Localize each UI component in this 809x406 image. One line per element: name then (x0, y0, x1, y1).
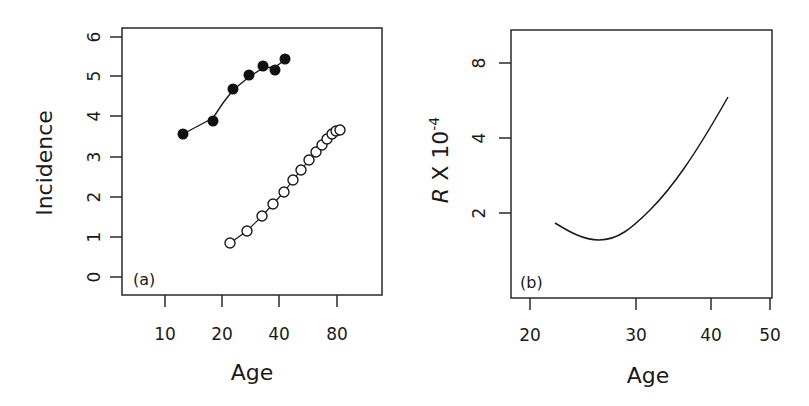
panel-b-label: (b) (520, 273, 543, 292)
data-point (225, 238, 235, 248)
panel-b-x-axis-title: Age (627, 363, 670, 388)
panel-a-frame (122, 28, 382, 295)
figure: 0 1 2 3 4 5 6 Incidence 10 20 40 80 Age … (0, 0, 809, 406)
y-tick-label: 6 (84, 32, 104, 43)
data-point (335, 125, 345, 135)
y-title-mid: X 10 (428, 131, 453, 188)
panel-b-y-axis-title: R X 10-4 (426, 117, 453, 203)
data-point (258, 61, 269, 72)
panel-a: 0 1 2 3 4 5 6 Incidence 10 20 40 80 Age … (32, 28, 382, 385)
data-point (304, 155, 314, 165)
panel-a-y-axis-title: Incidence (32, 110, 57, 216)
y-tick-label: 3 (84, 152, 104, 163)
panel-a-y-tick-labels: 0 1 2 3 4 5 6 (84, 32, 104, 283)
panel-b-x-axis (530, 298, 770, 310)
x-tick-label: 80 (326, 324, 348, 344)
y-tick-label: 1 (84, 232, 104, 243)
x-tick-label: 30 (625, 325, 647, 345)
data-point (270, 65, 281, 76)
y-tick-label: 2 (469, 208, 489, 219)
data-point (268, 199, 278, 209)
y-tick-label: 8 (469, 58, 489, 69)
data-point (257, 211, 267, 221)
panel-b: 2 4 8 R X 10-4 20 30 40 50 Age (b) (426, 30, 781, 388)
panel-a-y-axis (110, 37, 122, 277)
series-filled (178, 54, 291, 140)
panel-a-label: (a) (133, 270, 155, 289)
series-open (225, 125, 345, 248)
panel-a-x-axis-title: Age (231, 360, 274, 385)
data-point (288, 175, 298, 185)
x-tick-label: 10 (154, 324, 176, 344)
panel-a-x-axis (165, 295, 337, 307)
r-curve (555, 97, 728, 240)
panel-b-y-axis (499, 63, 511, 213)
y-title-r: R (428, 188, 453, 203)
x-tick-label: 50 (759, 325, 781, 345)
data-point (280, 54, 291, 65)
y-tick-label: 4 (469, 133, 489, 144)
y-tick-label: 0 (84, 272, 104, 283)
data-point (244, 70, 255, 81)
data-point (242, 226, 252, 236)
panel-b-x-tick-labels: 20 30 40 50 (519, 325, 781, 345)
x-tick-label: 20 (211, 324, 233, 344)
x-tick-label: 20 (519, 325, 541, 345)
data-point (228, 84, 239, 95)
y-title-exp: -4 (426, 117, 442, 131)
y-tick-label: 2 (84, 192, 104, 203)
y-tick-label: 4 (84, 111, 104, 122)
panel-a-x-tick-labels: 10 20 40 80 (154, 324, 348, 344)
panel-b-y-tick-labels: 2 4 8 (469, 58, 489, 219)
panel-b-frame (511, 30, 772, 298)
data-point (279, 187, 289, 197)
x-tick-label: 40 (700, 325, 722, 345)
data-point (296, 165, 306, 175)
x-tick-label: 40 (268, 324, 290, 344)
data-point (178, 129, 189, 140)
y-tick-label: 5 (84, 71, 104, 82)
data-point (208, 116, 219, 127)
